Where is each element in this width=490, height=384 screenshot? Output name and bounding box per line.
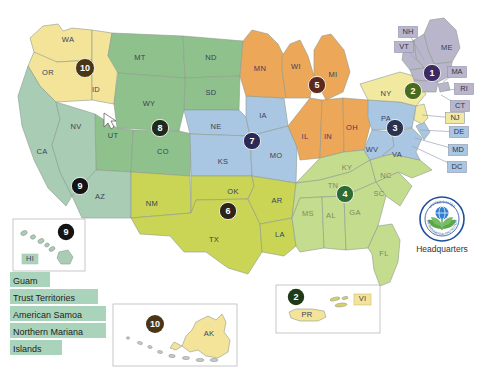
state-label-wy: WY	[143, 99, 156, 108]
legend-item-3[interactable]: Northern Mariana	[10, 323, 106, 338]
region-badge-number-3: 3	[392, 123, 397, 133]
state-label-mn: MN	[254, 64, 266, 73]
state-label-ky: KY	[342, 163, 353, 172]
state-label-ut: UT	[108, 131, 119, 140]
state-label-wv: WV	[366, 145, 379, 154]
region-badge-3[interactable]: 3	[386, 119, 403, 136]
legend-item-2[interactable]: American Samoa	[10, 306, 106, 321]
state-label-il: IL	[302, 132, 309, 141]
state-label-nv: NV	[70, 122, 81, 131]
state-label-co: CO	[157, 147, 169, 156]
territories-legend: GuamTrust TerritoriesAmerican SamoaNorth…	[10, 272, 106, 355]
legend-label-4: Islands	[13, 344, 42, 354]
callout-label-nh: NH	[403, 27, 414, 36]
state-label-me: ME	[441, 43, 453, 52]
legend-item-4[interactable]: Islands	[10, 340, 62, 355]
region-badge-number-8: 8	[157, 123, 162, 133]
state-label-ks: KS	[218, 157, 229, 166]
callout-ri[interactable]: RI	[455, 84, 474, 95]
hawaii-inset[interactable]: HI 9	[13, 219, 85, 271]
region-badge-4[interactable]: 4	[336, 185, 353, 202]
region-badge-number-1: 1	[429, 68, 434, 78]
state-label-ms: MS	[302, 209, 314, 218]
epa-headquarters[interactable]: UNITED STATES ENVIRONMENTAL PROTECTION H…	[416, 197, 468, 254]
callout-vt[interactable]: VT	[395, 42, 414, 53]
state-label-tn: TN	[328, 181, 339, 190]
map-canvas: WAORIDMTNDSDWYNVUTCONEKSCAAZNMTXOKMNIAMO…	[0, 0, 490, 384]
callout-label-de: DE	[454, 127, 464, 136]
state-label-wa: WA	[62, 35, 74, 44]
callout-label-dc: DC	[452, 162, 463, 171]
state-label-fl: FL	[379, 249, 388, 258]
region-badge-number-2: 2	[410, 86, 415, 96]
state-label-ar: AR	[271, 196, 282, 205]
state-label-tx: TX	[209, 235, 219, 244]
state-label-oh: OH	[346, 123, 358, 132]
callout-nh[interactable]: NH	[399, 27, 418, 38]
state-label-nd: ND	[205, 53, 217, 62]
callout-label-md: MD	[452, 145, 464, 154]
callout-ct[interactable]: CT	[451, 101, 470, 112]
hawaii-label: HI	[26, 254, 34, 263]
caribbean-region-number: 2	[293, 292, 298, 302]
callout-label-ct: CT	[455, 101, 465, 110]
callout-dc[interactable]: DC	[448, 162, 467, 173]
state-label-ny: NY	[380, 89, 391, 98]
state-label-or: OR	[42, 68, 54, 77]
state-label-sd: SD	[205, 88, 216, 97]
caribbean-inset[interactable]: PR VI 2	[276, 285, 380, 333]
state-label-ne: NE	[210, 122, 221, 131]
alaska-region-number: 10	[150, 319, 160, 329]
state-label-wi: WI	[291, 62, 301, 71]
state-label-mt: MT	[134, 53, 146, 62]
callout-label-ri: RI	[460, 84, 468, 93]
region-badge-1[interactable]: 1	[423, 64, 440, 81]
state-label-la: LA	[275, 230, 285, 239]
legend-item-1[interactable]: Trust Territories	[10, 289, 98, 304]
region-4-states[interactable]	[292, 150, 432, 286]
region-badge-number-5: 5	[314, 80, 319, 90]
legend-label-1: Trust Territories	[13, 293, 76, 303]
virgin-islands-label: VI	[359, 294, 367, 303]
region-badge-8[interactable]: 8	[151, 119, 168, 136]
region-badge-7[interactable]: 7	[243, 132, 260, 149]
region-badge-number-10: 10	[80, 63, 90, 73]
region-badge-6[interactable]: 6	[219, 202, 236, 219]
callout-label-ma: MA	[451, 67, 462, 76]
state-label-ia: IA	[259, 111, 267, 120]
legend-label-3: Northern Mariana	[13, 327, 83, 337]
callout-md[interactable]: MD	[449, 145, 468, 156]
region-badge-5[interactable]: 5	[308, 76, 325, 93]
region-badge-2[interactable]: 2	[404, 82, 421, 99]
headquarters-label: Headquarters	[416, 244, 468, 254]
callout-label-nj: NJ	[450, 113, 459, 122]
state-label-ca: CA	[36, 147, 47, 156]
hawaii-region-number: 9	[63, 227, 68, 237]
region-badge-number-9: 9	[77, 181, 82, 191]
state-label-mo: MO	[270, 151, 283, 160]
state-label-az: AZ	[95, 192, 105, 201]
state-label-al: AL	[326, 211, 336, 220]
region-badge-number-4: 4	[342, 189, 347, 199]
state-label-va: VA	[392, 150, 402, 159]
alaska-inset[interactable]: AK 10	[113, 304, 237, 366]
region-badge-9[interactable]: 9	[71, 177, 88, 194]
state-label-sc: SC	[373, 189, 384, 198]
alaska-label: AK	[204, 329, 215, 338]
puerto-rico-label: PR	[301, 310, 312, 319]
state-label-ga: GA	[349, 208, 360, 217]
region-badge-number-6: 6	[225, 206, 230, 216]
state-label-id: ID	[92, 85, 100, 94]
region-badge-10[interactable]: 10	[76, 59, 95, 78]
region-6-states[interactable]	[131, 172, 296, 274]
callout-de[interactable]: DE	[450, 127, 469, 138]
callout-label-vt: VT	[399, 42, 409, 51]
legend-item-0[interactable]: Guam	[10, 272, 50, 287]
callout-ma[interactable]: MA	[448, 67, 467, 78]
region-badge-number-7: 7	[249, 136, 254, 146]
epa-regions-map-page: WAORIDMTNDSDWYNVUTCONEKSCAAZNMTXOKMNIAMO…	[0, 0, 490, 384]
legend-label-0: Guam	[13, 276, 38, 286]
callout-nj[interactable]: NJ	[446, 113, 465, 124]
legend-label-2: American Samoa	[13, 310, 82, 320]
state-label-nm: NM	[146, 199, 158, 208]
